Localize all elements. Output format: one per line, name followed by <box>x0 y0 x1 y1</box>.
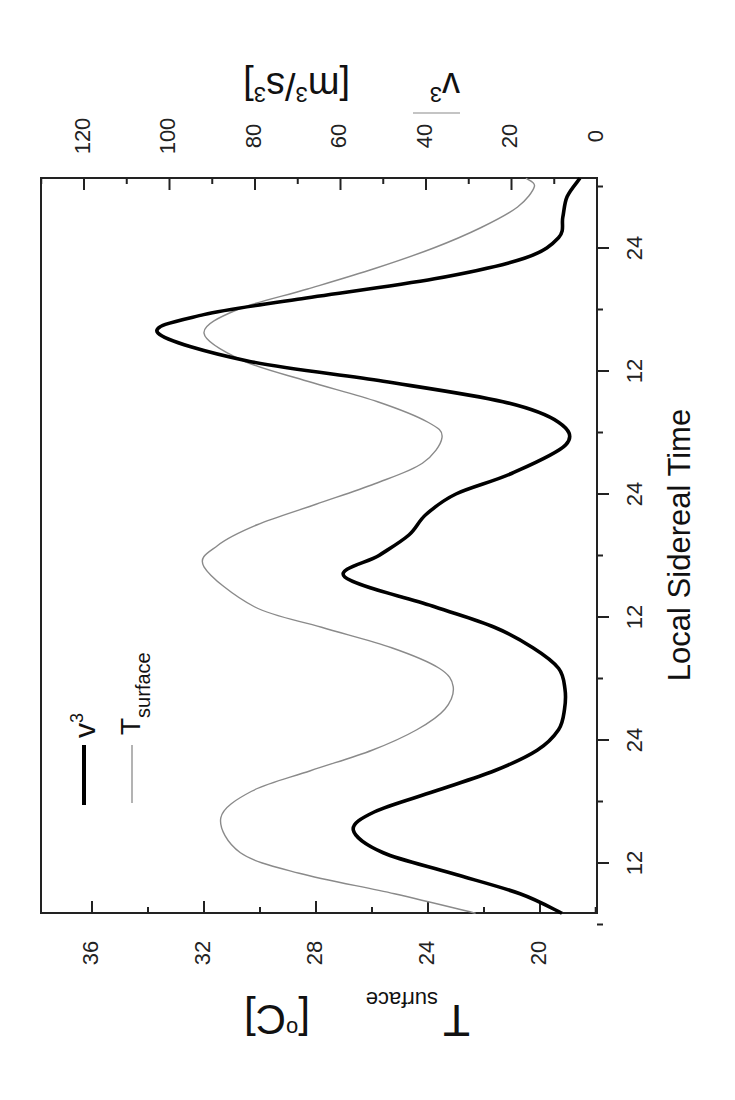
y-right-tick-label: 100 <box>155 118 180 155</box>
y-right-tick-label: 40 <box>412 124 437 148</box>
legend-item-v3: v3 <box>67 713 101 805</box>
x-axis-title: Local Sidereal Time <box>662 409 697 681</box>
axis-ticks <box>41 178 609 925</box>
y-right-tick-label: 80 <box>241 124 266 148</box>
plot-area-border <box>41 178 597 913</box>
right-axis-title-var: v3 <box>430 65 460 107</box>
x-tick-label: 24 <box>622 728 647 752</box>
plot-frame <box>41 178 597 913</box>
left-axis-title-main: T <box>443 996 470 1045</box>
y-right-tick-label: 0 <box>583 130 608 142</box>
legend: v3 Tsurface <box>67 652 154 805</box>
y-left-tick-label: 36 <box>78 941 103 965</box>
left-axis-title-sub: surface <box>366 987 438 1012</box>
legend-item-t-surface: Tsurface <box>115 652 154 803</box>
right-axis-title-unit: [m3/s3] <box>243 65 350 107</box>
x-tick-label: 12 <box>622 359 647 383</box>
rotated-dual-axis-line-chart: 1224122412242024283236020406080100120 Lo… <box>0 0 735 1100</box>
legend-label-t-surface: Tsurface <box>115 652 154 735</box>
right-axis-title: v3 [m3/s3] <box>243 65 460 113</box>
legend-label-v3: v3 <box>67 713 101 738</box>
x-tick-label: 12 <box>622 605 647 629</box>
y-left-tick-label: 20 <box>526 941 551 965</box>
v3-series-line <box>157 178 580 913</box>
x-tick-label: 12 <box>622 851 647 875</box>
x-tick-label: 24 <box>622 236 647 260</box>
left-axis-title-unit: [oC] <box>244 996 310 1043</box>
left-axis-title: T surface [oC] <box>244 987 470 1045</box>
y-left-tick-label: 24 <box>414 941 439 965</box>
y-right-tick-label: 20 <box>497 124 522 148</box>
x-tick-label: 24 <box>622 482 647 506</box>
y-left-tick-label: 32 <box>190 941 215 965</box>
y-right-tick-label: 60 <box>326 124 351 148</box>
y-left-tick-label: 28 <box>302 941 327 965</box>
y-right-tick-label: 120 <box>70 118 95 155</box>
